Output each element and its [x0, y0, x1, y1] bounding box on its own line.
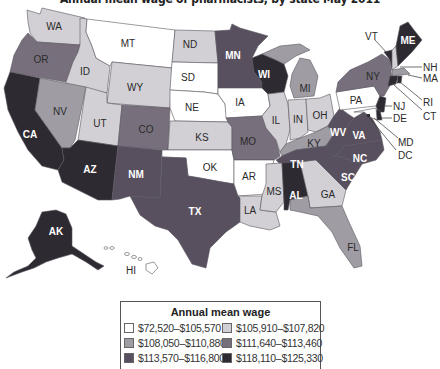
label-ny: NY	[366, 71, 380, 82]
label-de: DE	[393, 113, 407, 124]
legend-item-2: $105,910–$107,820	[222, 322, 322, 334]
label-id: ID	[80, 66, 90, 77]
label-wy: WY	[127, 82, 143, 93]
state-ct[interactable]	[388, 76, 398, 86]
label-sc: SC	[341, 172, 355, 183]
swatch-3	[124, 338, 134, 348]
label-co: CO	[139, 124, 154, 135]
label-tn: TN	[290, 159, 303, 170]
legend-label-3: $108,050–$110,880	[138, 337, 226, 349]
label-ok: OK	[203, 162, 218, 173]
label-oh: OH	[313, 110, 328, 121]
swatch-6	[222, 353, 232, 363]
label-nm: NM	[128, 169, 144, 180]
label-hi: HI	[126, 265, 136, 276]
label-ri: RI	[423, 97, 433, 108]
label-fl: FL	[347, 242, 359, 253]
label-wi: WI	[258, 69, 270, 80]
label-me: ME	[401, 35, 416, 46]
label-ky: KY	[307, 138, 321, 149]
label-mo: MO	[240, 136, 256, 147]
label-nv: NV	[53, 106, 67, 117]
label-ia: IA	[235, 97, 245, 108]
legend-label-6: $118,110–$125,330	[236, 352, 323, 364]
swatch-2	[222, 323, 232, 333]
label-or: OR	[34, 54, 49, 65]
label-nj: NJ	[393, 101, 405, 112]
legend-label-5: $113,570–$116,800	[138, 352, 225, 364]
label-mi: MI	[299, 83, 310, 94]
label-vt: VT	[365, 31, 378, 42]
label-il: IL	[272, 115, 281, 126]
swatch-5	[124, 353, 134, 363]
label-mt: MT	[121, 38, 135, 49]
leader-vt	[375, 40, 388, 54]
legend-label-1: $72,520–$105,570	[138, 322, 221, 334]
legend: Annual mean wage $72,520–$105,570 $105,9…	[120, 301, 321, 369]
label-ga: GA	[321, 189, 336, 200]
label-sd: SD	[181, 72, 195, 83]
swatch-4	[222, 338, 232, 348]
state-ma[interactable]	[392, 68, 410, 76]
legend-grid: $72,520–$105,570 $105,910–$107,820 $108,…	[121, 322, 320, 364]
leader-ri	[400, 82, 422, 100]
legend-title: Annual mean wage	[121, 306, 320, 318]
label-in: IN	[293, 114, 303, 125]
label-nd: ND	[183, 39, 197, 50]
legend-item-6: $118,110–$125,330	[222, 352, 322, 364]
state-fl[interactable]	[290, 196, 362, 268]
legend-label-4: $111,640–$113,460	[236, 337, 322, 349]
state-ri[interactable]	[397, 76, 402, 83]
us-map: WA OR CA ID NV MT WY UT AZ CO NM ND SD N…	[0, 0, 440, 300]
label-md: MD	[398, 137, 414, 148]
label-va: VA	[352, 130, 365, 141]
label-nh: NH	[423, 62, 437, 73]
label-ut: UT	[93, 118, 106, 129]
label-ks: KS	[195, 132, 209, 143]
label-pa: PA	[350, 95, 363, 106]
label-ar: AR	[242, 171, 256, 182]
legend-item-1: $72,520–$105,570	[124, 322, 222, 334]
legend-item-5: $113,570–$116,800	[124, 352, 222, 364]
label-dc: DC	[398, 150, 412, 161]
label-ak: AK	[49, 226, 64, 237]
label-ne: NE	[185, 102, 199, 113]
legend-item-4: $111,640–$113,460	[222, 337, 322, 349]
marker-dc	[367, 114, 370, 117]
label-ms: MS	[267, 186, 282, 197]
label-nc: NC	[353, 153, 367, 164]
label-tx: TX	[189, 206, 202, 217]
label-ct: CT	[423, 111, 436, 122]
swatch-1	[124, 323, 134, 333]
label-az: AZ	[83, 164, 96, 175]
label-ca: CA	[23, 129, 37, 140]
label-la: LA	[244, 205, 257, 216]
label-wa: WA	[46, 21, 62, 32]
label-ma: MA	[423, 73, 438, 84]
label-mn: MN	[225, 50, 241, 61]
label-wv: WV	[330, 127, 346, 138]
label-al: AL	[289, 190, 302, 201]
leader-ma	[408, 75, 422, 78]
legend-item-3: $108,050–$110,880	[124, 337, 222, 349]
state-ak[interactable]	[6, 210, 104, 278]
legend-label-2: $105,910–$107,820	[236, 322, 324, 334]
